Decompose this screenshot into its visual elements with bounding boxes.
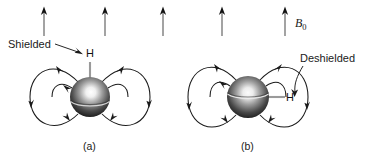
figure-canvas: B0 [0, 0, 369, 161]
panel-a-caption: (a) [83, 140, 96, 152]
panel-a: H Shielded (a) [8, 38, 152, 152]
panel-a-annotation-leader [55, 44, 83, 54]
panel-a-hydrogen-label: H [86, 47, 94, 59]
panel-b-deshielded-label: Deshielded [300, 52, 355, 64]
external-field-arrow-1 [41, 7, 47, 37]
external-field-arrow-5 [282, 7, 288, 37]
panel-a-shielded-label: Shielded [8, 38, 51, 50]
external-field-arrow-4 [219, 7, 225, 37]
panel-b-hydrogen-label: H [286, 91, 294, 103]
nmr-shielding-figure: B0 [0, 0, 369, 161]
panel-a-nucleus-sphere [70, 77, 110, 117]
panel-b-caption: (b) [241, 140, 254, 152]
b0-field-label: B0 [295, 16, 307, 32]
panel-b: H Deshielded (b) [186, 52, 355, 152]
external-field-arrow-2 [102, 7, 108, 37]
external-field-arrow-group [41, 7, 288, 37]
external-field-arrow-3 [160, 7, 166, 37]
